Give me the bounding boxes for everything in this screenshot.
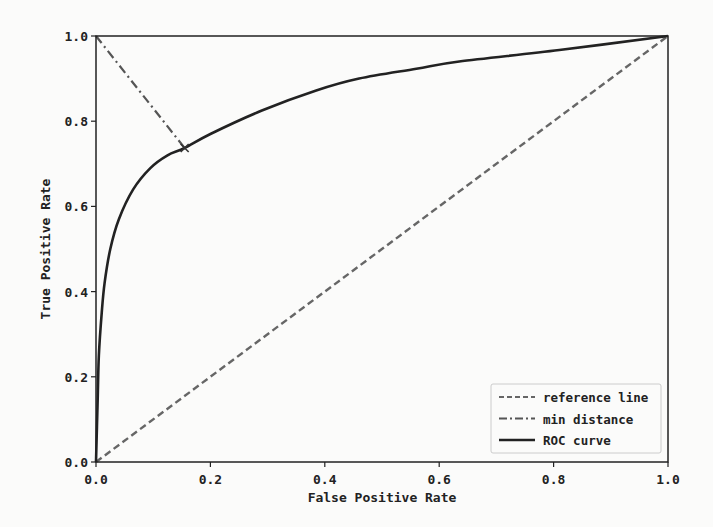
legend-label: reference line bbox=[543, 390, 649, 405]
y-tick-label: 0.2 bbox=[65, 370, 88, 385]
y-tick-label: 0.6 bbox=[65, 199, 89, 214]
x-axis-ticks: 0.00.20.40.60.81.0 bbox=[84, 462, 680, 487]
x-tick-label: 0.8 bbox=[542, 472, 566, 487]
y-axis-ticks: 0.00.20.40.60.81.0 bbox=[65, 29, 96, 470]
y-tick-label: 0.8 bbox=[65, 114, 89, 129]
x-tick-label: 0.2 bbox=[199, 472, 222, 487]
min-distance-line bbox=[96, 36, 185, 148]
y-axis-title: True Positive Rate bbox=[38, 178, 53, 319]
x-axis-title: False Positive Rate bbox=[308, 490, 457, 505]
x-tick-label: 0.4 bbox=[313, 472, 337, 487]
y-tick-label: 1.0 bbox=[65, 29, 89, 44]
x-tick-label: 1.0 bbox=[656, 472, 680, 487]
roc-chart-figure: 0.00.20.40.60.81.0 0.00.20.40.60.81.0 Fa… bbox=[0, 0, 713, 527]
y-tick-label: 0.0 bbox=[65, 455, 89, 470]
roc-chart: 0.00.20.40.60.81.0 0.00.20.40.60.81.0 Fa… bbox=[0, 0, 713, 527]
legend-label: ROC curve bbox=[543, 433, 611, 448]
legend-label: min distance bbox=[543, 412, 634, 427]
x-tick-label: 0.0 bbox=[84, 472, 108, 487]
legend: reference line min distance ROC curve bbox=[491, 384, 661, 453]
y-tick-label: 0.4 bbox=[65, 285, 89, 300]
x-tick-label: 0.6 bbox=[427, 472, 451, 487]
